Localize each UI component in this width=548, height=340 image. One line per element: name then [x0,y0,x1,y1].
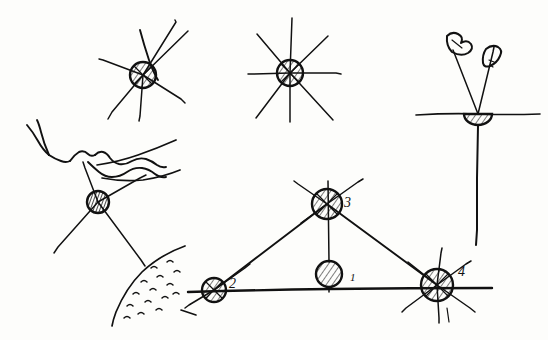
station-1-group: 1 [316,261,356,287]
hatched-circle-station [87,191,109,213]
plumb-line [476,126,478,245]
station-label-2: 2 [229,276,236,291]
top-center-station [248,18,341,122]
station-label-3: 3 [343,195,351,210]
hatched-circle-station [316,261,342,287]
station-2-group: 2 [185,264,250,308]
survey-sketch-page: 3 1 2 [0,0,548,340]
triangulation-network: 3 1 2 [185,179,492,323]
sight-line-ray [453,50,478,114]
slope-stipple-marks [124,261,180,319]
sketch-canvas: 3 1 2 [0,0,548,340]
station-4-group: 4 [402,248,475,323]
signal-flag-mark [447,33,472,55]
station-label-1: 1 [350,271,356,283]
top-left-station [99,20,188,121]
sight-line-ray [478,47,494,114]
top-right-station [416,33,540,245]
slope-lower-line [181,310,196,315]
left-terrain-station [27,30,196,326]
hatched-semicircle-station [464,114,492,125]
station-label-4: 4 [458,264,465,279]
slope-edge-line [112,246,185,326]
